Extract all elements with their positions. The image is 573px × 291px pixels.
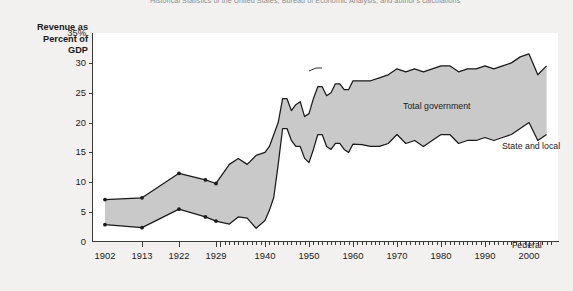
y-axis-line xyxy=(92,33,93,242)
y-axis-tick-10: 10 xyxy=(44,176,86,187)
figure-revenue-percent-gdp: Historical Statistics of the United Stat… xyxy=(0,0,573,291)
x-axis-minor-tick-1950 xyxy=(309,242,310,247)
area-state-and-local xyxy=(105,54,547,228)
x-axis-tickmark-1922 xyxy=(179,242,180,247)
y-axis-tick-35: 35% xyxy=(44,27,86,38)
x-axis-minor-tick-1969 xyxy=(393,242,394,245)
y-axis-tickmark-30 xyxy=(89,63,93,64)
x-axis-minor-tick-1957 xyxy=(340,242,341,245)
x-axis-minor-tick-1998 xyxy=(520,242,521,245)
y-axis-tickmark-10 xyxy=(89,182,93,183)
x-axis-minor-tick-1962 xyxy=(362,242,363,245)
x-axis-tick-1940: 1940 xyxy=(245,250,285,261)
x-axis-minor-tick-1974 xyxy=(415,242,416,245)
x-axis-minor-tick-1966 xyxy=(379,242,380,245)
y-axis-tick-0: 0 xyxy=(44,236,86,247)
x-axis-minor-tick-1997 xyxy=(516,242,517,245)
source-note-strip: Historical Statistics of the United Stat… xyxy=(0,0,573,13)
x-axis-minor-tick-1963 xyxy=(366,242,367,245)
x-axis-minor-tick-1985 xyxy=(463,242,464,245)
x-axis-minor-tick-1931 xyxy=(225,242,226,245)
x-axis-minor-tick-1984 xyxy=(459,242,460,245)
x-axis-minor-tick-1954 xyxy=(327,242,328,245)
x-axis-minor-tick-1987 xyxy=(472,242,473,245)
x-axis-minor-tick-1992 xyxy=(494,242,495,245)
x-axis-minor-tick-1938 xyxy=(256,242,257,245)
x-axis-minor-tick-1976 xyxy=(423,242,424,245)
x-axis-minor-tick-2005 xyxy=(551,242,552,245)
x-axis-minor-tick-1980 xyxy=(441,242,442,247)
x-axis-minor-tick-1960 xyxy=(353,242,354,247)
source-note-text: Historical Statistics of the United Stat… xyxy=(150,0,460,5)
x-axis-minor-tick-1949 xyxy=(305,242,306,245)
annotation-state-and-local: State and local xyxy=(502,141,560,151)
x-axis-minor-tick-2004 xyxy=(547,242,548,245)
x-axis-minor-tick-1986 xyxy=(467,242,468,245)
y-axis-tick-30: 30 xyxy=(44,57,86,68)
x-axis-minor-tick-1939 xyxy=(261,242,262,245)
x-axis-minor-tick-1999 xyxy=(525,242,526,245)
x-axis-minor-tick-1945 xyxy=(287,242,288,245)
x-axis-minor-tick-1993 xyxy=(498,242,499,245)
x-axis-minor-tick-1978 xyxy=(432,242,433,245)
x-axis-minor-tick-1941 xyxy=(269,242,270,245)
x-axis-minor-tick-1970 xyxy=(397,242,398,247)
x-axis-minor-tick-1943 xyxy=(278,242,279,245)
annotation-total-government: Total government xyxy=(403,101,470,111)
x-axis-minor-tick-1937 xyxy=(252,242,253,245)
y-axis-tick-5: 5 xyxy=(44,206,86,217)
x-axis-minor-tick-1932 xyxy=(229,242,230,245)
x-axis-minor-tick-1965 xyxy=(375,242,376,245)
x-axis-minor-tick-1956 xyxy=(335,242,336,245)
x-axis-minor-tick-1930 xyxy=(220,242,221,247)
y-axis-tick-15: 15 xyxy=(44,146,86,157)
x-axis-minor-tick-1968 xyxy=(388,242,389,245)
x-axis-minor-tick-1971 xyxy=(401,242,402,245)
x-axis-minor-tick-1953 xyxy=(322,242,323,245)
x-axis-tick-1950: 1950 xyxy=(289,250,329,261)
x-axis-tick-1980: 1980 xyxy=(421,250,461,261)
x-axis-minor-tick-1982 xyxy=(450,242,451,245)
x-axis-minor-tick-1990 xyxy=(485,242,486,247)
x-axis-minor-tick-1964 xyxy=(371,242,372,245)
y-axis-tick-25: 25 xyxy=(44,87,86,98)
y-axis-tickmark-5 xyxy=(89,212,93,213)
x-axis-minor-tick-1988 xyxy=(476,242,477,245)
x-axis-minor-tick-1977 xyxy=(428,242,429,245)
x-axis-minor-tick-1933 xyxy=(234,242,235,245)
x-axis-minor-tick-1955 xyxy=(331,242,332,245)
x-axis-minor-tick-1989 xyxy=(481,242,482,245)
x-axis-minor-tick-1967 xyxy=(384,242,385,245)
x-axis-minor-tick-1946 xyxy=(291,242,292,245)
x-axis-minor-tick-1961 xyxy=(357,242,358,245)
x-axis-minor-tick-1935 xyxy=(243,242,244,245)
x-axis-minor-tick-1972 xyxy=(406,242,407,245)
x-axis-minor-tick-1936 xyxy=(247,242,248,245)
y-axis-tickmark-20 xyxy=(89,123,93,124)
x-axis-minor-tick-1975 xyxy=(419,242,420,245)
x-axis-minor-tick-1979 xyxy=(437,242,438,245)
x-axis-minor-tick-1959 xyxy=(349,242,350,245)
y-axis-tickmark-15 xyxy=(89,152,93,153)
x-axis-minor-tick-1940 xyxy=(265,242,266,247)
x-axis-minor-tick-1973 xyxy=(410,242,411,245)
x-axis-minor-tick-1958 xyxy=(344,242,345,245)
x-axis-minor-tick-1996 xyxy=(511,242,512,245)
x-axis-minor-tick-2001 xyxy=(533,242,534,245)
x-axis-tick-2000: 2000 xyxy=(509,250,549,261)
x-axis-minor-tick-2002 xyxy=(538,242,539,245)
x-axis-tick-1929: 1929 xyxy=(196,250,236,261)
x-axis-tick-1990: 1990 xyxy=(465,250,505,261)
x-axis-tickmark-1929 xyxy=(216,242,217,247)
x-axis-tick-1913: 1913 xyxy=(122,250,162,261)
x-axis-minor-tick-1944 xyxy=(283,242,284,245)
chart-svg xyxy=(93,33,558,242)
x-axis-minor-tick-1934 xyxy=(238,242,239,245)
y-axis-tick-20: 20 xyxy=(44,117,86,128)
x-axis-minor-tick-1952 xyxy=(318,242,319,245)
x-axis-minor-tick-1991 xyxy=(489,242,490,245)
x-axis-tick-1922: 1922 xyxy=(159,250,199,261)
leader-line-total-government xyxy=(309,68,322,71)
x-axis-minor-tick-1981 xyxy=(445,242,446,245)
x-axis-minor-tick-1995 xyxy=(507,242,508,245)
